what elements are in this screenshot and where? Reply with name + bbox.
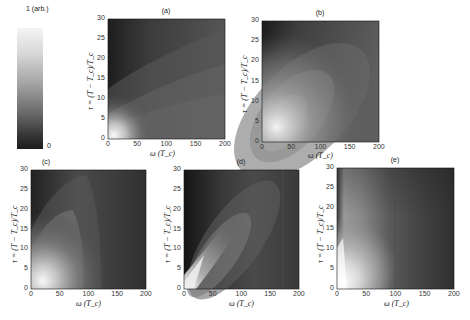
colorbar-top-label: 1 (arb.) bbox=[26, 5, 49, 12]
x-tick-label: 100 bbox=[83, 290, 95, 297]
y-tick-label: 10 bbox=[251, 97, 259, 104]
panel-c-ylabel: τ = (T − T_c)/T_c bbox=[10, 205, 19, 263]
x-tick-label: 0 bbox=[260, 143, 264, 150]
panel-b-ylabel: τ = (T − T_c)/T_c bbox=[240, 55, 249, 113]
panel-c-title: (c) bbox=[26, 158, 66, 165]
x-tick-label: 50 bbox=[133, 140, 141, 147]
x-tick-label: 100 bbox=[236, 290, 248, 297]
panel-b-xlabel: ω (T_c) bbox=[308, 151, 333, 160]
panel-c: (c) bbox=[31, 170, 146, 289]
y-tick-label: 15 bbox=[20, 225, 28, 232]
y-tick-label: 20 bbox=[326, 203, 334, 210]
y-tick-label: 30 bbox=[173, 165, 181, 172]
y-tick-label: 10 bbox=[20, 244, 28, 251]
y-tick-label: 5 bbox=[177, 264, 181, 271]
panel-e-title: (e) bbox=[375, 156, 415, 163]
x-tick-label: 200 bbox=[373, 143, 385, 150]
y-tick-label: 20 bbox=[173, 205, 181, 212]
panel-a-xlabel: ω (T_c) bbox=[150, 149, 175, 158]
x-tick-label: 200 bbox=[293, 290, 305, 297]
y-tick-label: 25 bbox=[326, 183, 334, 190]
y-tick-label: 20 bbox=[97, 54, 105, 61]
x-tick-label: 150 bbox=[419, 290, 431, 297]
x-tick-label: 0 bbox=[335, 290, 339, 297]
y-tick-label: 10 bbox=[97, 94, 105, 101]
x-tick-label: 50 bbox=[56, 290, 64, 297]
y-tick-label: 25 bbox=[173, 185, 181, 192]
x-tick-label: 0 bbox=[106, 140, 110, 147]
y-tick-label: 0 bbox=[177, 284, 181, 291]
y-tick-label: 15 bbox=[97, 74, 105, 81]
y-tick-label: 30 bbox=[326, 163, 334, 170]
panel-c-xlabel: ω (T_c) bbox=[76, 299, 101, 308]
y-tick-label: 0 bbox=[330, 284, 334, 291]
y-tick-label: 10 bbox=[173, 244, 181, 251]
x-tick-label: 50 bbox=[362, 290, 370, 297]
panel-e: (e) bbox=[337, 168, 454, 289]
colorbar bbox=[17, 28, 43, 149]
x-tick-label: 150 bbox=[264, 290, 276, 297]
x-tick-label: 0 bbox=[29, 290, 33, 297]
panel-c-heatmap bbox=[31, 170, 146, 289]
panel-e-ylabel: τ = (T − T_c)/T_c bbox=[316, 205, 325, 263]
panel-a-ylabel: τ = (T − T_c)/T_c bbox=[86, 52, 95, 110]
x-tick-label: 0 bbox=[182, 290, 186, 297]
y-tick-label: 15 bbox=[326, 224, 334, 231]
y-tick-label: 5 bbox=[24, 264, 28, 271]
y-tick-label: 10 bbox=[326, 244, 334, 251]
y-tick-label: 0 bbox=[255, 137, 259, 144]
panel-a-heatmap bbox=[108, 19, 225, 139]
x-tick-label: 150 bbox=[190, 140, 202, 147]
y-tick-label: 5 bbox=[101, 114, 105, 121]
panel-d-title: (d) bbox=[221, 158, 261, 165]
y-tick-label: 30 bbox=[97, 14, 105, 21]
y-tick-label: 20 bbox=[20, 205, 28, 212]
x-tick-label: 50 bbox=[209, 290, 217, 297]
y-tick-label: 5 bbox=[255, 117, 259, 124]
x-tick-label: 50 bbox=[287, 143, 295, 150]
panel-b-heatmap bbox=[262, 21, 379, 142]
y-tick-label: 25 bbox=[20, 185, 28, 192]
x-tick-label: 150 bbox=[111, 290, 123, 297]
x-tick-label: 150 bbox=[344, 143, 356, 150]
y-tick-label: 0 bbox=[101, 134, 105, 141]
y-tick-label: 5 bbox=[330, 264, 334, 271]
y-tick-label: 30 bbox=[251, 16, 259, 23]
panel-a: (a) bbox=[108, 19, 225, 139]
y-tick-label: 30 bbox=[20, 165, 28, 172]
y-tick-label: 25 bbox=[251, 36, 259, 43]
x-tick-label: 200 bbox=[140, 290, 152, 297]
y-tick-label: 0 bbox=[24, 284, 28, 291]
panel-e-xlabel: ω (T_c) bbox=[384, 299, 409, 308]
y-tick-label: 20 bbox=[251, 56, 259, 63]
panel-b: (b) bbox=[262, 21, 379, 142]
colorbar-bottom-label: 0 bbox=[47, 142, 51, 149]
panel-d-heatmap bbox=[184, 170, 299, 289]
x-tick-label: 100 bbox=[390, 290, 402, 297]
panel-a-title: (a) bbox=[146, 7, 186, 14]
panel-b-title: (b) bbox=[300, 9, 340, 16]
x-tick-label: 200 bbox=[448, 290, 460, 297]
x-tick-label: 200 bbox=[219, 140, 231, 147]
x-tick-label: 100 bbox=[161, 140, 173, 147]
y-tick-label: 15 bbox=[173, 225, 181, 232]
panel-d-ylabel: τ = (T − T_c)/T_c bbox=[163, 205, 172, 263]
x-tick-label: 100 bbox=[315, 143, 327, 150]
y-tick-label: 25 bbox=[97, 34, 105, 41]
y-tick-label: 15 bbox=[251, 77, 259, 84]
panel-d: (d) bbox=[184, 170, 299, 289]
panel-d-xlabel: ω (T_c) bbox=[229, 299, 254, 308]
panel-e-heatmap bbox=[337, 168, 454, 289]
